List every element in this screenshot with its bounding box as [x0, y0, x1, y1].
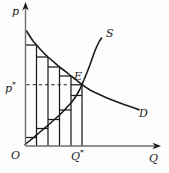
equilibrium-price-star: *	[12, 80, 16, 89]
equilibrium-price-letter: p	[5, 82, 12, 95]
y-axis-label: p	[12, 5, 19, 18]
equilibrium-point-label: E	[73, 70, 82, 83]
economics-figure: p Q O p* Q* E S D	[0, 0, 169, 173]
equilibrium-quantity-letter: Q	[71, 150, 80, 163]
demand-curve-label: D	[138, 107, 148, 120]
equilibrium-quantity-star: *	[80, 148, 84, 157]
supply-curve-label: S	[106, 27, 114, 40]
origin-label: O	[11, 149, 20, 162]
x-axis-label: Q	[149, 152, 158, 165]
supply-demand-chart: p Q O p* Q* E S D	[0, 0, 169, 173]
